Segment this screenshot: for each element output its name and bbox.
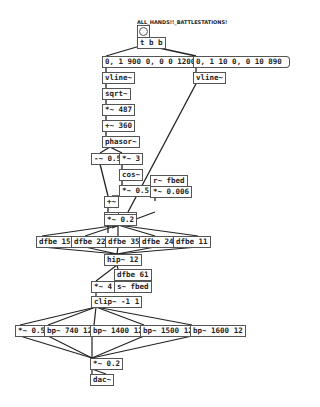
bang-label: ALL_HANDS!!_BATTLESTATIONS! (137, 19, 227, 25)
sqrt-object[interactable]: sqrt~ (102, 88, 131, 100)
dfbe-15-object[interactable]: dfbe 15 (36, 236, 74, 248)
dfbe-22-object[interactable]: dfbe 22 (71, 236, 109, 248)
multiply-0.006-object[interactable]: *~ 0.006 (150, 186, 192, 198)
bandpass-1600-object[interactable]: bp~ 1600 12 (190, 325, 246, 337)
clip-object[interactable]: clip~ -1 1 (91, 296, 142, 308)
bandpass-1400-object[interactable]: bp~ 1400 12 (90, 325, 146, 337)
multiply-4-object[interactable]: *~ 4 (91, 281, 115, 293)
bandpass-740-object[interactable]: bp~ 740 12 (44, 325, 95, 337)
multiply-0.5-object[interactable]: *~ 0.5 (119, 185, 152, 197)
vline-object-2[interactable]: vline~ (193, 72, 226, 84)
multiply-0.2-object-1[interactable]: *~ 0.2 (104, 214, 137, 226)
vline-object-1[interactable]: vline~ (102, 72, 135, 84)
message-box-1[interactable]: 0, 1 900 0, 0 0 1200 (102, 56, 200, 68)
dfbe-24-object[interactable]: dfbe 24 (139, 236, 177, 248)
add-360-object[interactable]: +~ 360 (102, 120, 135, 132)
dac-object[interactable]: dac~ (90, 374, 114, 386)
trigger-object[interactable]: t b b (137, 37, 166, 49)
multiply-0.2-object-2[interactable]: *~ 0.2 (90, 358, 123, 370)
cos-object[interactable]: cos~ (119, 169, 143, 181)
bandpass-1500-object[interactable]: bp~ 1500 12 (140, 325, 196, 337)
hip-12-object[interactable]: hip~ 12 (104, 254, 142, 266)
multiply-3-object[interactable]: *~ 3 (119, 153, 143, 165)
message-box-2[interactable]: 0, 1 10 0, 0 10 890 (193, 56, 287, 68)
add-object[interactable]: +~ (104, 196, 119, 208)
multiply-487-object[interactable]: *~ 487 (102, 104, 135, 116)
dfbe-11-object[interactable]: dfbe 11 (173, 236, 211, 248)
dfbe-61-object[interactable]: dfbe 61 (114, 269, 152, 281)
phasor-object[interactable]: phasor~ (102, 136, 140, 148)
dfbe-35-object[interactable]: dfbe 35 (105, 236, 143, 248)
send-fbed-object[interactable]: s~ fbed (114, 281, 152, 293)
